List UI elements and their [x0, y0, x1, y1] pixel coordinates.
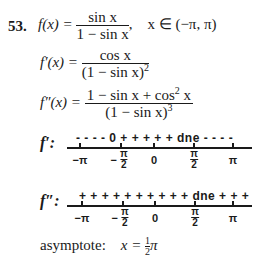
- asymptote-pi: π: [150, 237, 158, 253]
- tick-label-half-pi: π2: [191, 207, 199, 228]
- fdoubleprime-denominator-base: (1 − sin x): [105, 104, 167, 120]
- fdoubleprime-lhs: f″(x) =: [40, 94, 81, 110]
- fdoubleprime-denominator: (1 − sin x)3: [85, 104, 193, 120]
- tick-label-zero: 0: [151, 154, 157, 166]
- function-definition: f(x) = sin x 1 − sin x , x ∈ (−π, π): [38, 9, 217, 42]
- tick-label-neg-pi: −π: [73, 154, 88, 166]
- tick-label-den: 2: [191, 218, 199, 228]
- tick-label-zero: 0: [152, 212, 158, 224]
- f-fraction: sin x 1 − sin x: [76, 9, 128, 42]
- tick-label-neg-pi: −π: [75, 212, 90, 224]
- f-numerator: sin x: [76, 9, 128, 26]
- fdoubleprime-numerator-main: 1 − sin x + cos: [87, 87, 175, 103]
- tick-label-neg-half-pi: − π2: [110, 149, 127, 170]
- asymptote-label: asymptote:: [40, 237, 106, 253]
- tick-label-fraction: π2: [120, 149, 128, 170]
- tick-label-den: 2: [121, 218, 129, 228]
- tick-mark: [193, 143, 195, 147]
- fprime-fraction: cos x (1 − sin x)2: [82, 47, 149, 80]
- asymptote-lhs: x =: [121, 237, 142, 253]
- tick-label-prefix: −: [111, 212, 117, 224]
- tick-mark: [153, 143, 155, 147]
- fprime-denominator-base: (1 − sin x): [82, 64, 144, 80]
- fdoubleprime-numerator-tail: x: [180, 87, 191, 103]
- asymptote-line: asymptote: x = 12π: [40, 236, 158, 257]
- tick-label-den: 2: [120, 160, 128, 170]
- tick-mark: [122, 201, 124, 205]
- fdoubleprime-numerator: 1 − sin x + cos2 x: [85, 87, 193, 104]
- tick-mark: [120, 143, 122, 147]
- tick-label-neg-half-pi: − π2: [111, 207, 128, 228]
- number-line-axis: [67, 205, 252, 207]
- tick-mark: [232, 143, 234, 147]
- fprime-lhs: f′(x) =: [40, 54, 78, 70]
- f-comma: ,: [129, 16, 133, 32]
- tick-label-fraction: π2: [191, 207, 199, 228]
- f-lhs: f(x) =: [38, 16, 73, 32]
- tick-mark: [154, 201, 156, 205]
- sign-chart-f-double-prime-signs: + + + + + + + + + + dne + + +: [79, 189, 249, 203]
- f-domain: x ∈ (−π, π): [147, 16, 216, 32]
- fdoubleprime-denominator-exp: 3: [168, 102, 173, 113]
- tick-label-den: 2: [190, 160, 198, 170]
- tick-label-fraction: π2: [121, 207, 129, 228]
- fprime-numerator: cos x: [82, 47, 149, 64]
- fprime-denominator-exp: 2: [144, 62, 149, 73]
- tick-mark: [79, 143, 81, 147]
- tick-mark: [232, 201, 234, 205]
- second-derivative: f″(x) = 1 − sin x + cos2 x (1 − sin x)3: [40, 87, 193, 120]
- tick-label-pi: π: [229, 154, 237, 166]
- number-line-axis: [67, 147, 252, 149]
- tick-mark: [194, 201, 196, 205]
- sign-chart-f-double-prime-label: f″:: [40, 192, 60, 210]
- fprime-denominator: (1 − sin x)2: [82, 64, 149, 80]
- tick-label-prefix: −: [110, 154, 116, 166]
- tick-label-pi: π: [229, 212, 237, 224]
- f-denominator: 1 − sin x: [76, 26, 128, 42]
- problem-number: 53.: [8, 18, 27, 35]
- fdoubleprime-fraction: 1 − sin x + cos2 x (1 − sin x)3: [85, 87, 193, 120]
- tick-label-fraction: π2: [190, 149, 198, 170]
- sign-chart-f-prime-label: f′:: [40, 134, 55, 152]
- tick-mark: [81, 201, 83, 205]
- tick-label-half-pi: π2: [190, 149, 198, 170]
- first-derivative: f′(x) = cos x (1 − sin x)2: [40, 47, 149, 80]
